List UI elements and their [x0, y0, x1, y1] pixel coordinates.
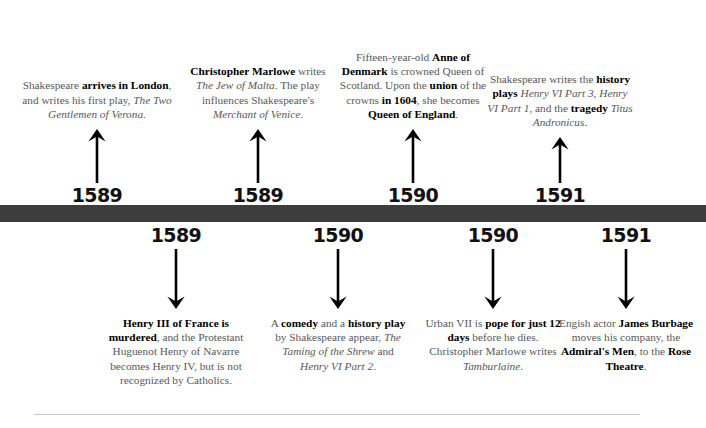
timeline-event-above: Christopher Marlowe writes The Jew of Ma… — [182, 26, 334, 205]
event-year: 1589 — [151, 226, 201, 245]
arrow-down-icon — [164, 249, 188, 311]
timeline-event-below: 1591 Engish actor James Burbage moves hi… — [552, 226, 700, 406]
event-year: 1589 — [233, 186, 283, 205]
event-description: Shakespeare writes the history plays Hen… — [486, 72, 634, 129]
event-year: 1590 — [468, 226, 518, 245]
footer-rule — [34, 414, 640, 415]
arrow-up-icon — [401, 127, 425, 183]
timeline-figure: Shakespeare arrives in London, and write… — [0, 0, 706, 428]
event-year: 1590 — [313, 226, 363, 245]
event-description: Henry III of France is murdered, and the… — [100, 316, 252, 387]
event-year: 1589 — [72, 186, 122, 205]
timeline-event-below: 1590 A comedy and a history play by Shak… — [268, 226, 408, 406]
event-year: 1590 — [388, 186, 438, 205]
event-description: Engish actor James Burbage moves his com… — [552, 316, 700, 373]
arrow-down-icon — [481, 249, 505, 311]
timeline-event-below: 1590 Urban VII is pope for just 12 days … — [420, 226, 566, 406]
event-description: A comedy and a history play by Shakespea… — [268, 316, 408, 373]
arrow-down-icon — [326, 249, 350, 311]
timeline-event-above: Shakespeare arrives in London, and write… — [22, 40, 172, 205]
event-description: Fifteen-year-old Anne of Denmark is crow… — [336, 50, 490, 121]
timeline-event-above: Shakespeare writes the history plays Hen… — [486, 26, 634, 205]
event-description: Shakespeare arrives in London, and write… — [22, 78, 172, 121]
arrow-up-icon — [246, 127, 270, 183]
event-description: Christopher Marlowe writes The Jew of Ma… — [182, 64, 334, 121]
arrow-up-icon — [85, 127, 109, 183]
arrow-up-icon — [548, 135, 572, 183]
arrow-down-icon — [614, 249, 638, 311]
timeline-event-above: Fifteen-year-old Anne of Denmark is crow… — [336, 18, 490, 205]
event-year: 1591 — [535, 186, 585, 205]
event-description: Urban VII is pope for just 12 days befor… — [420, 316, 566, 373]
timeline-bar — [0, 205, 706, 222]
timeline-event-below: 1589 Henry III of France is murdered, an… — [100, 226, 252, 406]
event-year: 1591 — [601, 226, 651, 245]
